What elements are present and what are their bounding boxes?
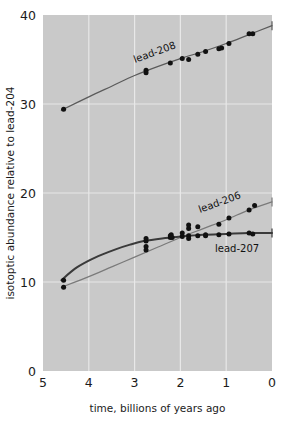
data-point-lead-206-13 [252, 203, 257, 208]
x-tick-label-5: 5 [39, 375, 47, 390]
data-point-lead-207-0 [61, 278, 66, 283]
data-point-lead-208-4 [180, 56, 185, 61]
y-axis-title: isotoptic abundance relative to lead-204 [4, 86, 16, 299]
data-point-lead-206-11 [226, 215, 231, 220]
data-point-lead-208-0 [61, 107, 66, 112]
x-axis-title: time, billions of years ago [90, 402, 226, 414]
chart-figure: 010203040 543210 lead-208lead-206lead-20… [0, 0, 287, 422]
data-point-lead-206-0 [61, 285, 66, 290]
data-point-lead-207-11 [226, 231, 231, 236]
data-point-lead-208-10 [226, 41, 231, 46]
x-tick-label-2: 2 [176, 375, 184, 390]
data-point-lead-208-3 [168, 61, 173, 66]
x-tick-label-1: 1 [222, 375, 230, 390]
data-point-lead-206-8 [195, 224, 200, 229]
data-point-lead-206-7 [186, 223, 191, 228]
y-tick-label-40: 40 [20, 8, 36, 23]
data-point-lead-206-10 [216, 222, 221, 227]
data-point-lead-208-6 [195, 52, 200, 57]
data-point-lead-207-5 [180, 234, 185, 239]
data-point-lead-208-9 [219, 45, 224, 50]
x-tick-label-3: 3 [131, 375, 139, 390]
data-point-lead-206-12 [247, 207, 252, 212]
y-tick-label-20: 20 [20, 186, 36, 201]
y-tick-label-10: 10 [20, 275, 36, 290]
data-point-lead-207-10 [216, 232, 221, 237]
data-point-lead-207-9 [203, 233, 208, 238]
data-point-lead-207-13 [250, 231, 255, 236]
data-point-lead-207-2 [144, 236, 149, 241]
x-tick-label-4: 4 [85, 375, 93, 390]
data-point-lead-208-7 [203, 49, 208, 54]
data-point-lead-206-2 [144, 244, 149, 249]
data-point-lead-208-2 [144, 70, 149, 75]
x-tick-label-0: 0 [268, 375, 276, 390]
data-point-lead-208-12 [250, 31, 255, 36]
data-point-lead-207-7 [186, 236, 191, 241]
series-label-lead-207: lead-207 [215, 243, 259, 254]
data-point-lead-207-8 [195, 233, 200, 238]
data-point-lead-207-4 [170, 235, 175, 240]
isotopic-abundance-chart: 010203040 543210 lead-208lead-206lead-20… [0, 0, 287, 422]
data-point-lead-208-5 [186, 57, 191, 62]
y-tick-label-0: 0 [28, 364, 36, 379]
y-tick-label-30: 30 [20, 97, 36, 112]
